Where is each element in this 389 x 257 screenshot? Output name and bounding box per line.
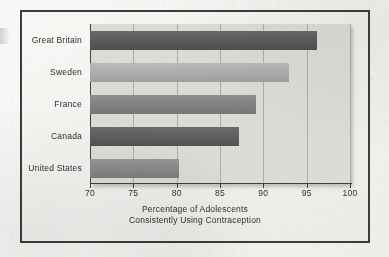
- x-tick-label-75: 75: [128, 188, 138, 198]
- chart-screenshot: Great BritainSwedenFranceCanadaUnited St…: [0, 0, 389, 257]
- scan-edge-artifact: [0, 28, 9, 44]
- bar-france: [90, 95, 256, 114]
- x-tick-label-80: 80: [172, 188, 182, 198]
- bar-canada: [90, 127, 239, 146]
- x-axis-title-line-1: Percentage of Adolescents: [22, 204, 368, 215]
- category-label-sweden: Sweden: [50, 68, 82, 77]
- bar-shading: [90, 159, 179, 178]
- gridline-100: [350, 24, 351, 184]
- bar-shading: [90, 95, 256, 114]
- chart-frame-border: Great BritainSwedenFranceCanadaUnited St…: [20, 10, 370, 243]
- x-axis-line: [90, 183, 352, 184]
- x-tick-label-90: 90: [258, 188, 268, 198]
- bar-sweden: [90, 63, 289, 82]
- bar-shading: [90, 127, 239, 146]
- category-label-united-states: United States: [28, 164, 82, 173]
- x-axis-title: Percentage of AdolescentsConsistently Us…: [22, 204, 368, 226]
- bar-united-states: [90, 159, 179, 178]
- category-label-great-britain: Great Britain: [32, 36, 82, 45]
- x-tick-label-95: 95: [302, 188, 312, 198]
- bar-shading: [90, 63, 289, 82]
- x-tick-label-70: 70: [85, 188, 95, 198]
- bar-shading: [90, 31, 317, 50]
- bar-great-britain: [90, 31, 317, 50]
- x-tick-label-85: 85: [215, 188, 225, 198]
- category-label-france: France: [54, 100, 82, 109]
- x-tick-label-100: 100: [342, 188, 357, 198]
- category-label-canada: Canada: [51, 132, 82, 141]
- plot-area: [90, 24, 350, 184]
- x-axis-title-line-2: Consistently Using Contraception: [22, 215, 368, 226]
